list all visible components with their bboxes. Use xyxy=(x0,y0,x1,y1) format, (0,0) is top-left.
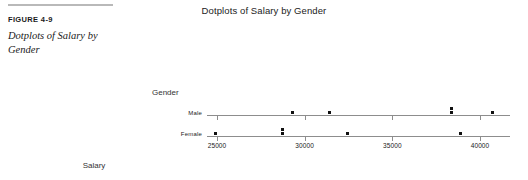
dot-female-38900 xyxy=(459,132,462,135)
x-axis-title-text: Salary xyxy=(83,161,106,170)
tick-label-35000: 35000 xyxy=(370,142,414,149)
tick-male-25000 xyxy=(217,115,218,120)
tick-label-30000: 30000 xyxy=(283,142,327,149)
dot-female-28750 xyxy=(281,128,284,131)
tick-male-30000 xyxy=(305,115,306,120)
row-label-male: Male xyxy=(142,110,202,116)
row-label-female: Female xyxy=(142,131,202,137)
y-axis-title: Gender xyxy=(152,88,179,97)
tick-male-35000 xyxy=(392,115,393,120)
tick-label-25000: 25000 xyxy=(195,142,239,149)
tick-female-40000 xyxy=(480,136,481,141)
dot-female-24900 xyxy=(214,132,217,135)
tick-label-40000: 40000 xyxy=(458,142,502,149)
dot-male-29300 xyxy=(291,111,294,114)
axis-line-male xyxy=(207,115,510,116)
dot-male-38400 xyxy=(450,111,453,114)
tick-female-30000 xyxy=(305,136,306,141)
tick-female-25000 xyxy=(217,136,218,141)
plot-area: Gender Male Female 25000300003500040000 xyxy=(0,0,528,180)
dot-male-31400 xyxy=(328,111,331,114)
dot-female-28750 xyxy=(281,132,284,135)
x-axis-title: Salary xyxy=(0,161,528,170)
axis-line-female xyxy=(207,136,510,137)
dot-male-40700 xyxy=(491,111,494,114)
dot-male-38400 xyxy=(450,107,453,110)
tick-male-40000 xyxy=(480,115,481,120)
tick-female-35000 xyxy=(392,136,393,141)
dot-female-32450 xyxy=(346,132,349,135)
dotplot-chart: Dotplots of Salary by Gender Gender Male… xyxy=(0,0,528,180)
